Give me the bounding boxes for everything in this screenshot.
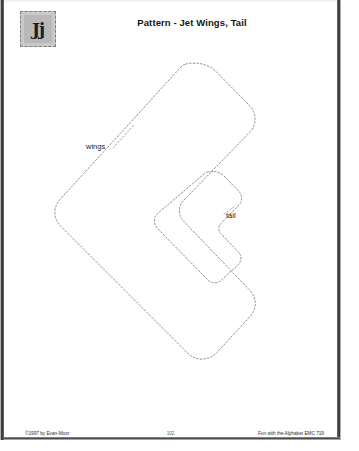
pattern-outlines-svg <box>0 0 341 440</box>
wings-label: wings <box>86 142 105 151</box>
page-footer: ©1997 by Evan-Moor 102 Fun with the Alph… <box>0 424 341 440</box>
wings-leader-line <box>113 125 134 148</box>
worksheet-page: Jj Pattern - Jet Wings, Tail wings tail … <box>0 0 359 451</box>
tail-label: tail <box>226 211 236 220</box>
page-margin-bottom <box>0 440 359 451</box>
tail-cut-outline <box>154 171 241 282</box>
page-margin-right <box>341 0 359 451</box>
footer-series-title: Fun with the Alphabet EMC 719 <box>258 431 324 437</box>
pattern-canvas: wings tail <box>0 0 341 440</box>
